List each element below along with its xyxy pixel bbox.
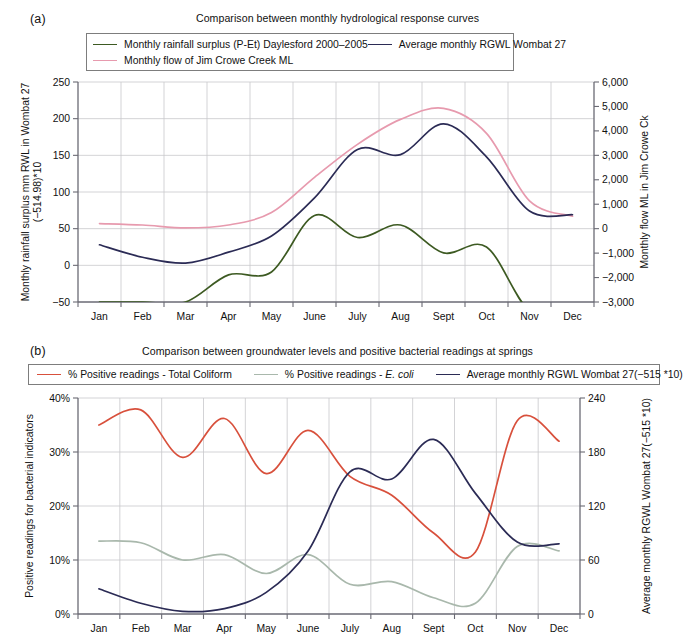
y-axis-title: Positive readings for bacterial indicato… [24, 414, 35, 598]
y-axis-title: Monthly rainfall surplus mm RWL in Womba… [20, 82, 31, 301]
legend-label-rgwl-wombat-b: Average monthly RGWL Wombat 27(−515 *10) [467, 369, 683, 380]
x-axis-tick-label: Apr [220, 311, 237, 322]
panel-b: (b) Comparison between groundwater level… [0, 336, 675, 643]
x-axis-tick-label: Nov [508, 623, 527, 634]
x-axis-tick-label: Feb [134, 311, 152, 322]
x-axis-tick-label: Dec [563, 311, 581, 322]
y-axis-tick-label: 0% [55, 609, 70, 620]
y2-axis-tick-label: 0 [588, 609, 594, 620]
y2-axis-tick-label: 240 [588, 393, 606, 404]
y2-axis-tick-label: 60 [588, 555, 600, 566]
y2-axis-tick-label: 4,000 [602, 125, 628, 136]
y2-axis-tick-label: 180 [588, 447, 606, 458]
panel-a-title: Comparison between monthly hydrological … [0, 12, 675, 24]
y2-axis-tick-label: 3,000 [602, 150, 628, 161]
x-axis-tick-label: Mar [174, 623, 192, 634]
legend-item-total-coliform[interactable]: % Positive readings - Total Coliform [37, 369, 232, 380]
y2-axis-tick-label: 1,000 [602, 199, 628, 210]
panel-b-legend: % Positive readings - Total Coliform % P… [28, 364, 660, 385]
y-axis-tick-label: 100 [53, 187, 71, 198]
y2-axis-tick-label: 0 [602, 223, 608, 234]
y-axis-tick-label: 30% [49, 447, 70, 458]
x-axis-tick-label: July [348, 311, 367, 322]
legend-label-ecoli: % Positive readings - E. coli [285, 369, 414, 380]
y2-axis-tick-label: −3,000 [602, 297, 634, 308]
y2-axis-tick-label: 5,000 [602, 101, 628, 112]
x-axis-tick-label: July [341, 623, 360, 634]
x-axis-tick-label: May [262, 311, 282, 322]
x-axis-tick-label: Mar [177, 311, 195, 322]
x-axis-tick-label: Sept [433, 311, 454, 322]
x-axis-tick-label: Dec [550, 623, 568, 634]
y2-axis-tick-label: −2,000 [602, 272, 634, 283]
legend-label-rainfall-surplus: Monthly rainfall surplus (P-Et) Daylesfo… [124, 39, 368, 50]
y-axis-tick-label: 0 [64, 260, 70, 271]
legend-swatch-rgwl-wombat-b [436, 374, 460, 375]
x-axis-tick-label: Aug [391, 311, 410, 322]
x-axis-tick-label: Sept [423, 623, 444, 634]
legend-swatch-rgwl-wombat [368, 44, 392, 45]
legend-swatch-rainfall-surplus [93, 44, 117, 45]
x-axis-tick-label: Aug [383, 623, 402, 634]
legend-swatch-total-coliform [37, 374, 61, 375]
y-axis-tick-label: 200 [53, 113, 71, 124]
panel-a-legend: Monthly rainfall surplus (P-Et) Daylesfo… [86, 33, 514, 71]
x-axis-tick-label: Oct [478, 311, 494, 322]
y-axis-tick-label: 50 [58, 223, 70, 234]
y2-axis-tick-label: −1,000 [602, 248, 634, 259]
x-axis-tick-label: Oct [467, 623, 483, 634]
panel-a: (a) Comparison between monthly hydrologi… [0, 0, 675, 330]
legend-item-rgwl-wombat-b[interactable]: Average monthly RGWL Wombat 27(−515 *10) [436, 369, 683, 380]
legend-swatch-jim-crowe-flow [93, 60, 117, 61]
x-axis-tick-label: Apr [216, 623, 233, 634]
y2-axis-title: Average monthly RGWL Wombat 27(−515 *10) [641, 398, 652, 614]
legend-item-ecoli[interactable]: % Positive readings - E. coli [254, 369, 414, 380]
x-axis-tick-label: June [297, 623, 320, 634]
y-axis-title-line2: (−514.98)*10 [32, 162, 43, 223]
panel-b-title: Comparison between groundwater levels an… [0, 345, 675, 357]
x-axis-tick-label: Jan [91, 311, 108, 322]
legend-label-jim-crowe-flow: Monthly flow of Jim Crowe Creek ML [124, 55, 293, 66]
x-axis-tick-label: Jan [91, 623, 108, 634]
x-axis-tick-label: Nov [520, 311, 539, 322]
y2-axis-title: Monthly flow ML in Jim Crowe Ck [639, 115, 650, 269]
legend-label-rgwl-wombat: Average monthly RGWL Wombat 27 [399, 39, 566, 50]
x-axis-tick-label: June [303, 311, 326, 322]
x-axis-tick-label: Feb [132, 623, 150, 634]
legend-swatch-ecoli [254, 374, 278, 375]
y2-axis-tick-label: 2,000 [602, 174, 628, 185]
y-axis-tick-label: 20% [49, 501, 70, 512]
y-axis-tick-label: −50 [52, 297, 70, 308]
y-axis-tick-label: 150 [53, 150, 71, 161]
panel-b-plot: 0%10%20%30%40%060120180240JanFebMarAprMa… [0, 386, 675, 641]
panel-a-plot: −50050100150200250−3,000−2,000−1,00001,0… [0, 70, 675, 330]
legend-label-total-coliform: % Positive readings - Total Coliform [68, 369, 232, 380]
y2-axis-tick-label: 6,000 [602, 77, 628, 88]
y2-axis-tick-label: 120 [588, 501, 606, 512]
y-axis-tick-label: 250 [53, 77, 71, 88]
legend-item-rainfall-surplus[interactable]: Monthly rainfall surplus (P-Et) Daylesfo… [93, 39, 368, 50]
legend-item-jim-crowe-flow[interactable]: Monthly flow of Jim Crowe Creek ML [93, 55, 293, 66]
y-axis-tick-label: 40% [49, 393, 70, 404]
y-axis-tick-label: 10% [49, 555, 70, 566]
x-axis-tick-label: May [256, 623, 276, 634]
legend-item-rgwl-wombat[interactable]: Average monthly RGWL Wombat 27 [368, 39, 566, 50]
